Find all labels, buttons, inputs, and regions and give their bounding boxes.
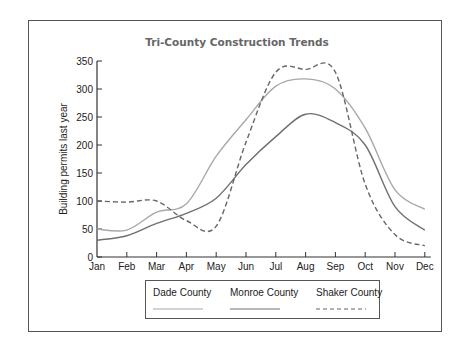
x-tick-label: Oct: [357, 261, 373, 272]
x-tick-label: Mar: [148, 261, 166, 272]
x-tick-label: Nov: [386, 261, 404, 272]
y-tick-label: 250: [76, 112, 93, 123]
y-tick-label: 50: [82, 224, 94, 235]
x-tick-label: Jun: [238, 261, 254, 272]
x-tick-label: Apr: [179, 261, 195, 272]
line-chart: Tri-County Construction Trends0501001502…: [0, 0, 475, 342]
x-tick-label: Feb: [118, 261, 136, 272]
legend-label: Dade County: [153, 287, 211, 298]
chart-title: Tri-County Construction Trends: [145, 36, 329, 48]
y-tick-label: 150: [76, 168, 93, 179]
y-tick-label: 350: [76, 56, 93, 67]
x-tick-label: Jul: [269, 261, 282, 272]
y-axis-label: Building permits last year: [58, 102, 69, 214]
x-tick-label: Sep: [327, 261, 345, 272]
y-tick-label: 300: [76, 84, 93, 95]
x-tick-label: Jan: [89, 261, 105, 272]
series-line-monroe-county: [97, 114, 425, 241]
x-tick-label: May: [207, 261, 226, 272]
x-tick-label: Aug: [297, 261, 315, 272]
y-tick-label: 200: [76, 140, 93, 151]
legend-label: Shaker County: [316, 287, 382, 298]
legend-label: Monroe County: [230, 287, 298, 298]
x-tick-label: Dec: [416, 261, 434, 272]
y-tick-label: 100: [76, 196, 93, 207]
